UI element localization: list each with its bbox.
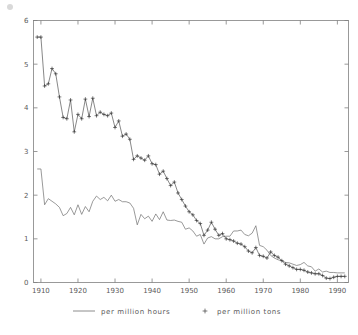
chart-figure: 191019201930194019501960197019801990 012… [0, 0, 358, 335]
x-tick-label: 1990 [328, 287, 346, 295]
series-markers-tons [35, 35, 346, 280]
x-tick-label: 1910 [32, 287, 50, 295]
chart-plot-area: 191019201930194019501960197019801990 012… [0, 0, 358, 335]
legend-label-hours: per million hours [101, 308, 170, 316]
chart-legend: per million hoursper million tons [73, 308, 281, 316]
data-series-group [35, 35, 346, 280]
x-tick-label: 1960 [217, 287, 235, 295]
series-line-hours [37, 169, 345, 273]
x-tick-label: 1940 [143, 287, 161, 295]
y-tick-label: 4 [24, 104, 29, 112]
legend-label-tons: per million tons [217, 308, 281, 316]
x-tick-label: 1950 [180, 287, 198, 295]
y-axis-ticks: 0123456 [24, 17, 348, 287]
series-line-tons [37, 37, 345, 278]
plot-frame [34, 21, 349, 283]
y-tick-label: 5 [24, 61, 28, 69]
x-tick-label: 1980 [291, 287, 309, 295]
x-tick-label: 1970 [254, 287, 272, 295]
y-tick-label: 6 [24, 17, 29, 25]
y-tick-label: 1 [24, 235, 28, 243]
x-axis-ticks: 191019201930194019501960197019801990 [32, 21, 346, 296]
x-tick-label: 1920 [69, 287, 87, 295]
y-tick-label: 2 [24, 192, 28, 200]
x-tick-label: 1930 [106, 287, 124, 295]
y-tick-label: 3 [24, 148, 28, 156]
y-tick-label: 0 [24, 279, 28, 287]
